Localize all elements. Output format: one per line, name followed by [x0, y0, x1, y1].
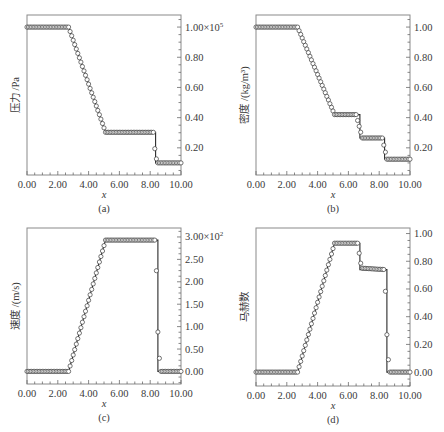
- y-tick-label: 0.60: [414, 283, 432, 294]
- x-tick-label: 10.00: [169, 179, 193, 190]
- y-tick-label: 0.40: [185, 112, 203, 123]
- y-tick-label: 0.20: [414, 142, 432, 153]
- y-axis-label: 密度 /(kg/m³): [238, 66, 251, 124]
- chart-panel-velocity: 0.002.004.006.008.0010.00x(c)3.00×1022.5…: [9, 228, 224, 424]
- x-tick-label: 4.00: [308, 179, 326, 190]
- x-tick-label: 6.00: [110, 179, 128, 190]
- x-axis: 0.002.004.006.008.0010.00x(b): [247, 171, 422, 215]
- numerical-solution-markers: [254, 241, 412, 374]
- panel-caption: (c): [98, 412, 110, 424]
- x-tick-label: 6.00: [339, 390, 357, 401]
- y-axis: 3.00×1022.502.001.501.000.500.00: [177, 230, 224, 382]
- x-tick-label: 0.00: [247, 390, 265, 401]
- y-tick-label: 2.00: [185, 276, 203, 287]
- x-tick-label: 0.00: [18, 179, 36, 190]
- x-tick-label: 4.00: [79, 388, 97, 399]
- y-tick-label: 0.50: [185, 344, 203, 355]
- x-tick-label: 0.00: [247, 179, 265, 190]
- y-tick-label: 0.20: [185, 142, 203, 153]
- y-axis-label: 压力 /Pa: [9, 77, 21, 113]
- y-tick-label: 1.00: [414, 22, 432, 33]
- x-axis: 0.002.004.006.008.0010.00x(d): [247, 382, 422, 426]
- y-tick-label: 3.00×102: [185, 230, 224, 242]
- x-tick-label: 8.00: [370, 390, 388, 401]
- x-tick-label: 10.00: [169, 388, 193, 399]
- y-tick-label: 0.80: [414, 256, 432, 267]
- chart-panel-density: 0.002.004.006.008.0010.00x(b)1.000.800.6…: [238, 15, 432, 215]
- exact-solution-line: [256, 243, 410, 372]
- chart-panel-mach-number: 0.002.004.006.008.0010.00x(d)1.000.800.6…: [238, 228, 432, 426]
- x-tick-label: 2.00: [49, 388, 67, 399]
- y-tick-label: 0.80: [414, 52, 432, 63]
- y-tick-label: 1.00×105: [185, 21, 224, 33]
- plot-frame: [27, 15, 181, 175]
- y-tick-label: 2.50: [185, 254, 203, 265]
- x-tick-label: 10.00: [398, 179, 422, 190]
- y-axis: 1.000.800.600.400.20: [406, 20, 432, 171]
- x-tick-label: 8.00: [141, 179, 159, 190]
- panel-caption: (b): [327, 203, 340, 215]
- y-tick-label: 1.00: [414, 228, 432, 239]
- x-tick-label: 6.00: [339, 179, 357, 190]
- x-axis-label: x: [330, 189, 336, 200]
- y-tick-label: 0.40: [414, 311, 432, 322]
- y-axis-label: 速度 /(m/s): [9, 282, 22, 330]
- x-tick-label: 2.00: [278, 390, 296, 401]
- numerical-solution-markers: [254, 25, 412, 161]
- y-axis-label: 马赫数: [238, 291, 250, 322]
- x-tick-label: 2.00: [49, 179, 67, 190]
- x-axis: 0.002.004.006.008.0010.00x(c): [18, 380, 193, 424]
- y-tick-label: 0.60: [185, 82, 203, 93]
- numerical-solution-markers: [25, 25, 183, 165]
- x-tick-label: 6.00: [110, 388, 128, 399]
- x-tick-label: 0.00: [18, 388, 36, 399]
- chart-panel-pressure: 0.002.004.006.008.0010.00x(a)1.00×1050.8…: [9, 15, 224, 215]
- x-axis-label: x: [101, 189, 107, 200]
- y-tick-label: 0.60: [414, 82, 432, 93]
- y-tick-label: 0.20: [414, 339, 432, 350]
- panel-caption: (a): [98, 203, 110, 215]
- y-tick-label: 0.00: [185, 366, 203, 377]
- y-tick-label: 0.80: [185, 52, 203, 63]
- exact-solution-line: [256, 27, 410, 159]
- x-axis-label: x: [101, 398, 107, 409]
- x-axis-label: x: [330, 400, 336, 411]
- panel-caption: (d): [327, 414, 340, 426]
- x-axis: 0.002.004.006.008.0010.00x(a): [18, 171, 193, 215]
- exact-solution-line: [27, 27, 181, 163]
- x-tick-label: 10.00: [398, 390, 422, 401]
- y-tick-label: 1.00: [185, 321, 203, 332]
- y-tick-label: 1.50: [185, 299, 203, 310]
- x-tick-label: 8.00: [370, 179, 388, 190]
- x-tick-label: 8.00: [141, 388, 159, 399]
- x-tick-label: 4.00: [308, 390, 326, 401]
- y-tick-label: 0.00: [414, 367, 432, 378]
- figure-canvas: 0.002.004.006.008.0010.00x(a)1.00×1050.8…: [0, 0, 444, 432]
- y-axis: 1.00×1050.800.600.400.20: [177, 20, 224, 171]
- exact-solution-line: [27, 240, 181, 371]
- x-tick-label: 4.00: [79, 179, 97, 190]
- numerical-solution-markers: [25, 238, 183, 374]
- x-tick-label: 2.00: [278, 179, 296, 190]
- y-tick-label: 0.40: [414, 112, 432, 123]
